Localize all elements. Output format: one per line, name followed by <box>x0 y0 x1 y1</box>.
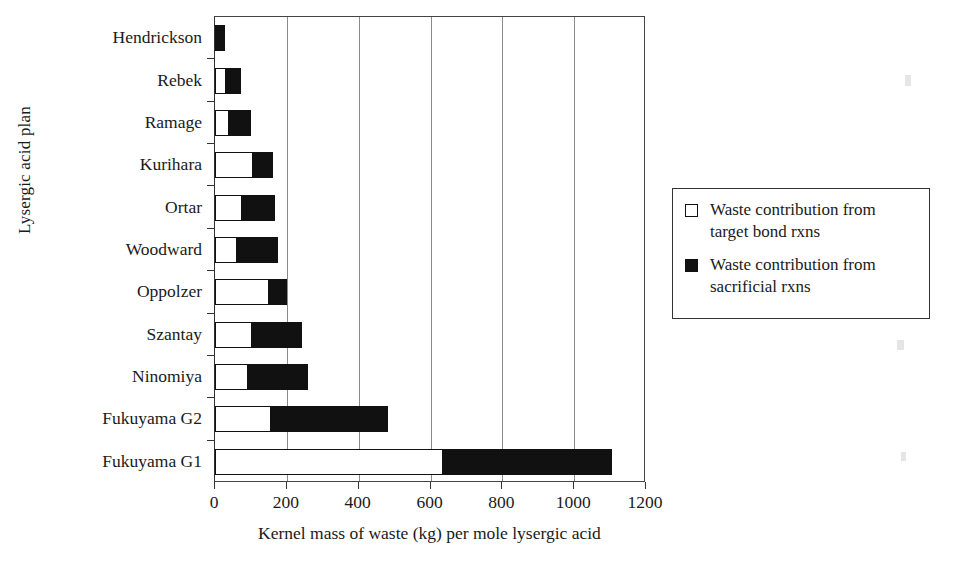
bar-series-container <box>215 17 644 481</box>
chart-figure: Lysergic acid plan HendricksonRebekRamag… <box>0 0 962 583</box>
y-axis-tick <box>207 101 214 102</box>
y-axis-tick <box>207 143 214 144</box>
x-axis-tick-label-1200: 1200 <box>615 492 675 513</box>
y-axis-label-oppolzer: Oppolzer <box>137 282 202 300</box>
y-axis-tick <box>207 185 214 186</box>
bar-segment-sacrificial <box>237 237 278 263</box>
y-axis-tick <box>207 58 214 59</box>
x-axis-tick-200 <box>286 482 287 489</box>
x-axis-tick-1000 <box>573 482 574 489</box>
y-axis-label-kurihara: Kurihara <box>140 155 202 173</box>
filled-square-swatch-icon <box>685 259 698 272</box>
y-axis-category-labels: HendricksonRebekRamageKuriharaOrtarWoodw… <box>40 16 208 482</box>
x-axis-tick-label-400: 400 <box>328 492 388 513</box>
bar-segment-target-bond <box>215 279 269 305</box>
y-axis-label-fukuyama-g1: Fukuyama G1 <box>102 452 202 470</box>
legend-entry-sacrificial: Waste contribution from sacrificial rxns <box>685 254 921 298</box>
bar-segment-target-bond <box>215 195 242 221</box>
legend-entry-target-bond: Waste contribution from target bond rxns <box>685 199 921 243</box>
x-axis-tick-800 <box>501 482 502 489</box>
bar-segment-sacrificial <box>248 364 308 390</box>
y-axis-tick <box>207 355 214 356</box>
x-axis-tick-label-200: 200 <box>256 492 316 513</box>
x-axis-tick-label-800: 800 <box>471 492 531 513</box>
x-axis-title: Kernel mass of waste (kg) per mole lyser… <box>214 523 645 544</box>
legend: Waste contribution from target bond rxns… <box>672 188 930 319</box>
bar-segment-target-bond <box>215 406 271 432</box>
bar-segment-sacrificial <box>242 195 275 221</box>
bar-segment-target-bond <box>215 322 252 348</box>
x-axis-tick-0 <box>214 482 215 489</box>
bar-segment-target-bond <box>215 237 237 263</box>
x-axis-tick-400 <box>358 482 359 489</box>
bar-segment-sacrificial <box>226 68 241 94</box>
bar-segment-sacrificial <box>229 110 251 136</box>
bar-segment-sacrificial <box>217 25 225 51</box>
y-axis-label-rebek: Rebek <box>157 71 202 89</box>
bar-segment-sacrificial <box>252 322 302 348</box>
x-axis-tick-1200 <box>645 482 646 489</box>
x-axis-tick-600 <box>430 482 431 489</box>
bar-segment-target-bond <box>215 68 226 94</box>
bar-segment-target-bond <box>215 449 443 475</box>
legend-label-sacrificial: Waste contribution from sacrificial rxns <box>710 254 910 298</box>
y-axis-tick <box>207 270 214 271</box>
open-square-swatch-icon <box>685 204 698 217</box>
bar-segment-target-bond <box>215 364 248 390</box>
y-axis-label-woodward: Woodward <box>126 240 202 258</box>
y-axis-tick <box>207 440 214 441</box>
bar-segment-sacrificial <box>443 449 612 475</box>
y-axis-label-ninomiya: Ninomiya <box>132 367 202 385</box>
x-axis-tick-label-0: 0 <box>184 492 244 513</box>
bar-segment-target-bond <box>215 110 229 136</box>
bar-segment-target-bond <box>215 152 253 178</box>
y-axis-tick <box>207 397 214 398</box>
scan-artifact <box>905 75 911 86</box>
y-axis-label-ortar: Ortar <box>165 198 202 216</box>
x-axis-tick-label-1000: 1000 <box>543 492 603 513</box>
y-axis-title: Lysergic acid plan <box>15 60 35 280</box>
y-axis-label-hendrickson: Hendrickson <box>113 28 202 46</box>
bar-segment-sacrificial <box>271 406 387 432</box>
bar-segment-sacrificial <box>269 279 287 305</box>
x-axis-tick-label-600: 600 <box>400 492 460 513</box>
y-axis-tick <box>207 228 214 229</box>
y-axis-label-szantay: Szantay <box>147 325 202 343</box>
plot-area <box>214 16 645 482</box>
y-axis-tick <box>207 313 214 314</box>
scan-artifact <box>901 452 906 461</box>
y-axis-label-fukuyama-g2: Fukuyama G2 <box>102 409 202 427</box>
scan-artifact <box>897 340 904 350</box>
y-axis-label-ramage: Ramage <box>145 113 202 131</box>
bar-segment-sacrificial <box>253 152 273 178</box>
legend-label-target-bond: Waste contribution from target bond rxns <box>710 199 910 243</box>
